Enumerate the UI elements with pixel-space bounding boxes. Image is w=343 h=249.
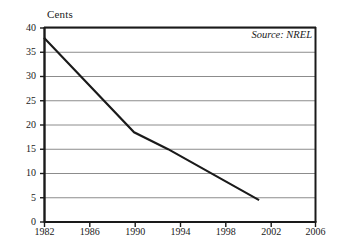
y-tick-label-25: 25	[14, 95, 36, 106]
x-tick-label-2002: 2002	[251, 226, 291, 237]
y-tick-label-20: 20	[14, 119, 36, 130]
y-tick-label-35: 35	[14, 46, 36, 57]
line-chart: Cents Source: NREL	[0, 0, 343, 249]
y-tick-label-5: 5	[14, 192, 36, 203]
x-tick-label-1986: 1986	[70, 226, 110, 237]
y-tick-label-10: 10	[14, 167, 36, 178]
gridlines	[44, 28, 316, 198]
x-tick-label-1990: 1990	[115, 226, 155, 237]
plot-area	[0, 0, 343, 249]
y-tick-label-40: 40	[14, 22, 36, 33]
y-tick-label-15: 15	[14, 143, 36, 154]
x-tick-label-1982: 1982	[25, 226, 65, 237]
x-tick-label-1998: 1998	[206, 226, 246, 237]
y-tick-label-30: 30	[14, 70, 36, 81]
x-tick-label-2006: 2006	[296, 226, 336, 237]
x-tick-label-1994: 1994	[161, 226, 201, 237]
data-series-line	[44, 38, 259, 201]
